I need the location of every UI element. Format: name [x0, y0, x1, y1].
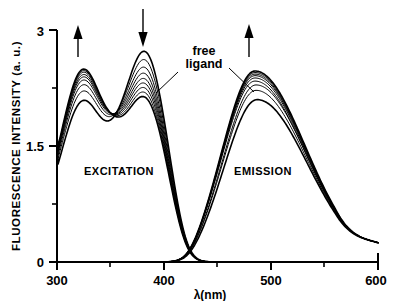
y-ticks-group	[49, 30, 57, 262]
chart-canvas: 0 1.5 3 300 400 500 600 FLUORESCENCE INT…	[0, 0, 395, 301]
y-tick-label-15: 1.5	[26, 139, 44, 154]
arrow-excitation-band1-icon	[73, 25, 82, 57]
excitation-region-label: EXCITATION	[84, 165, 154, 177]
excitation-curve	[57, 60, 230, 262]
free-ligand-leader-excitation	[156, 72, 178, 93]
x-axis-title: λ(nm)	[194, 288, 227, 301]
arrow-excitation-band2-icon	[138, 9, 147, 47]
emission-curve	[168, 100, 378, 262]
free-ligand-label-line1: free	[193, 44, 216, 58]
spectra-curves-group	[57, 51, 378, 262]
free-ligand-label-line2: ligand	[186, 57, 223, 71]
x-tick-label-300: 300	[46, 273, 68, 288]
arrow-emission-band-icon	[244, 24, 253, 57]
fluorescence-spectra-figure: 0 1.5 3 300 400 500 600 FLUORESCENCE INT…	[0, 0, 395, 301]
y-axis-title: FLUORESCENCE INTENSITY (a. u.)	[10, 41, 22, 251]
x-ticks-group	[57, 262, 378, 270]
x-tick-label-600: 600	[365, 273, 387, 288]
y-tick-label-3: 3	[37, 24, 44, 39]
x-tick-label-400: 400	[153, 273, 175, 288]
emission-region-label: EMISSION	[234, 165, 292, 177]
y-tick-label-0: 0	[37, 255, 44, 270]
x-tick-label-500: 500	[260, 273, 282, 288]
